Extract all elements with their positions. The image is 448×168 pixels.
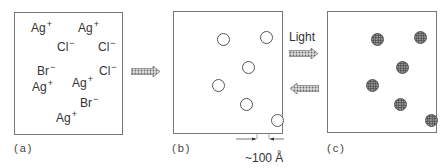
silver-particle	[366, 79, 379, 92]
panel-b-label: (b)	[172, 142, 191, 154]
light-label: Light	[289, 30, 315, 44]
ion-ag: Ag+	[78, 22, 99, 35]
ion-ag: Ag+	[56, 112, 77, 125]
arrow-right-icon	[131, 66, 160, 77]
scale-bar-label: ~100 Å	[245, 151, 283, 165]
scale-bar	[234, 134, 286, 148]
ion-br: Br−	[37, 65, 55, 78]
silver-particle	[394, 98, 407, 111]
arrow-right-icon	[289, 48, 318, 59]
silver-particle	[414, 31, 427, 44]
cluster-circle	[240, 98, 253, 111]
ion-cl: Cl−	[99, 65, 117, 78]
ion-ag: Ag+	[31, 22, 52, 35]
silver-particle	[425, 114, 438, 127]
cluster-circle	[217, 33, 230, 46]
ion-ag: Ag+	[72, 77, 93, 90]
panel-c-label: (c)	[327, 142, 346, 154]
panel-a-ion-lattice: Ag+Ag+Cl−Cl−Br−Cl−Ag+Ag+Br−Ag+	[14, 12, 123, 135]
ion-ag: Ag+	[32, 81, 53, 94]
silver-particle	[396, 61, 409, 74]
ion-cl: Cl−	[57, 41, 75, 54]
arrow-left-icon	[290, 83, 319, 94]
cluster-circle	[260, 31, 273, 44]
cluster-circle	[271, 114, 284, 127]
ion-cl: Cl−	[98, 41, 116, 54]
cluster-circle	[242, 61, 255, 74]
silver-particle	[371, 33, 384, 46]
panel-b-clusters	[173, 11, 283, 134]
cluster-circle	[212, 79, 225, 92]
ion-br: Br−	[80, 97, 98, 110]
panel-c-silver-particles	[327, 11, 437, 133]
panel-a-label: (a)	[14, 142, 33, 154]
